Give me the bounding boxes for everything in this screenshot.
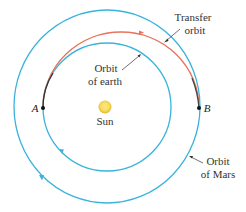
earth-orbit-label-line1: Orbit [94, 62, 117, 74]
point-b-label: B [204, 102, 211, 114]
sun-label: Sun [96, 115, 114, 127]
point-a-label: A [31, 102, 39, 114]
transfer-orbit-label-line1: Transfer [175, 11, 212, 23]
sun-icon [99, 101, 112, 114]
mars-leader-arrow-icon [189, 156, 193, 159]
transfer-orbit-label-line2: orbit [185, 24, 206, 36]
point-a-marker [41, 106, 45, 110]
point-b-marker [197, 106, 201, 110]
mars-orbit-label-line1: Orbit [206, 155, 229, 167]
mars-leader-line [191, 157, 203, 163]
hohmann-transfer-diagram: Sun A B Transfer orbit Orbit of earth Or… [0, 0, 246, 212]
transfer-orbit [43, 32, 199, 108]
earth-orbit-label-line2: of earth [88, 75, 122, 87]
earth-leader-line [122, 56, 139, 70]
transfer-arrow-icon [139, 31, 144, 35]
mars-orbit-label-line2: of Mars [201, 168, 236, 180]
mars-orbit-arrow-icon [39, 175, 44, 181]
